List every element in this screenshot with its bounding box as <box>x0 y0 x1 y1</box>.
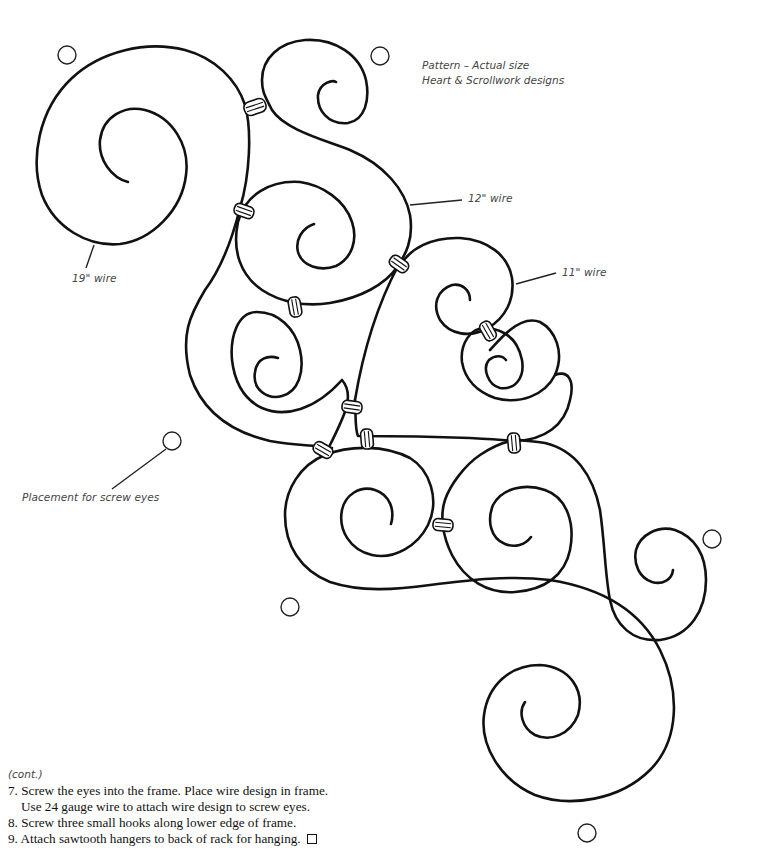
screw-eye-circle <box>578 824 596 842</box>
end-box-icon <box>307 834 317 844</box>
wire-binding <box>360 429 374 450</box>
step-text: Screw the eyes into the frame. Place wir… <box>21 783 328 798</box>
title-line-2: Heart & Scrollwork designs <box>422 73 564 88</box>
wire-19in-scroll <box>37 46 332 448</box>
wire-binding <box>433 518 454 532</box>
leader-19in <box>86 245 94 268</box>
step-text: Attach sawtooth hangers to back of rack … <box>20 831 300 846</box>
wire-bottom-left-scroll <box>285 448 674 801</box>
instruction-step-7: 7. Screw the eyes into the frame. Place … <box>8 783 328 799</box>
wire-middle-scroll <box>236 182 398 400</box>
instruction-step-7-continuation: Use 24 gauge wire to attach wire design … <box>8 799 328 815</box>
wire-binding <box>507 433 521 454</box>
instructions-block: (cont.) 7. Screw the eyes into the frame… <box>8 766 328 847</box>
wire-pattern-diagram <box>0 0 759 868</box>
leader-screw-eyes <box>112 449 166 489</box>
wire-11in-upper-scroll <box>400 238 513 334</box>
wire-binding <box>242 97 267 117</box>
wire-binding <box>287 296 302 318</box>
continued-label: (cont.) <box>8 766 328 782</box>
label-19in-wire: 19" wire <box>72 272 117 284</box>
wire-binding <box>233 202 256 220</box>
screw-eye-circle <box>371 47 389 65</box>
wire-12in-scroll <box>262 40 411 266</box>
wire-heart-bottom <box>355 374 572 441</box>
instruction-step-8: 8. Screw three small hooks along lower e… <box>8 815 328 831</box>
step-number: 8. <box>8 815 18 830</box>
screw-eye-circle <box>163 432 181 450</box>
wire-lower-left-scroll <box>232 312 348 445</box>
step-number: 9. <box>8 831 18 846</box>
wire-binding <box>341 400 362 415</box>
screw-eye-circle <box>281 598 299 616</box>
instruction-step-9: 9. Attach sawtooth hangers to back of ra… <box>8 831 328 847</box>
label-screw-eyes: Placement for screw eyes <box>22 491 159 503</box>
leader-12in <box>410 200 462 205</box>
wire-right-scroll <box>520 440 706 640</box>
title-line-1: Pattern – Actual size <box>422 58 564 73</box>
label-11in-wire: 11" wire <box>562 266 607 278</box>
screw-eye-circle <box>58 46 76 64</box>
wire-bottom-middle-scroll <box>442 440 571 592</box>
label-12in-wire: 12" wire <box>468 192 513 204</box>
step-text: Screw three small hooks along lower edge… <box>21 815 296 830</box>
step-number: 7. <box>8 783 18 798</box>
pattern-title: Pattern – Actual size Heart & Scrollwork… <box>422 58 564 88</box>
leader-11in <box>516 273 556 284</box>
screw-eye-circle <box>703 530 721 548</box>
